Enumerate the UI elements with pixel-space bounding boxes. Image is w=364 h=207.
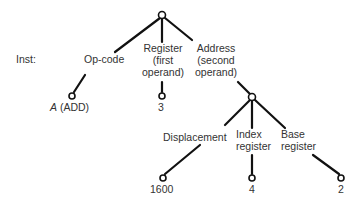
edge-label-register-line1: Register [142, 42, 184, 54]
edge-label-index-line2: register [236, 140, 276, 152]
edge-label-register-line2: (first [142, 54, 184, 66]
edge-label-base-line2: register [281, 140, 321, 152]
edge-label-base: Base register [281, 128, 321, 152]
leaf-node-base [338, 175, 344, 181]
leaf-label-base: 2 [338, 183, 344, 195]
leaf-node-displacement [160, 175, 166, 181]
edge-base-upper [255, 100, 285, 128]
leaf-label-displacement: 1600 [150, 183, 173, 195]
leaf-node-opcode [69, 93, 75, 99]
leaf-node-index [249, 175, 255, 181]
edge-label-address-line2: (second [192, 54, 240, 66]
edge-label-address-line1: Address [192, 42, 240, 54]
leaf-node-register [159, 93, 165, 99]
edge-address-lower [238, 82, 250, 94]
leaf-label-index: 4 [249, 183, 255, 195]
row-label: Inst: [16, 53, 36, 65]
edge-displacement-upper [225, 100, 250, 125]
edge-label-index-line1: Index [236, 128, 276, 140]
edge-label-displacement: Displacement [163, 131, 227, 143]
address-node [249, 94, 256, 101]
edge-displacement-lower [165, 145, 200, 174]
root-node [159, 12, 166, 19]
edge-label-register: Register (first operand) [142, 42, 184, 78]
edge-opcode-lower [74, 75, 85, 92]
edge-address-upper [165, 18, 192, 40]
leaf-label-register: 3 [158, 101, 164, 113]
opcode-name: (ADD) [60, 101, 89, 113]
leaf-label-opcode: A (ADD) [50, 101, 89, 113]
edge-label-address-line3: operand) [192, 66, 240, 78]
edge-label-index: Index register [236, 128, 276, 152]
opcode-symbol: A [50, 101, 57, 113]
edge-label-opcode: Op-code [84, 53, 124, 65]
edge-label-address: Address (second operand) [192, 42, 240, 78]
edge-label-base-line1: Base [281, 128, 321, 140]
edge-base-lower [313, 155, 339, 174]
edge-label-register-line3: operand) [142, 66, 184, 78]
